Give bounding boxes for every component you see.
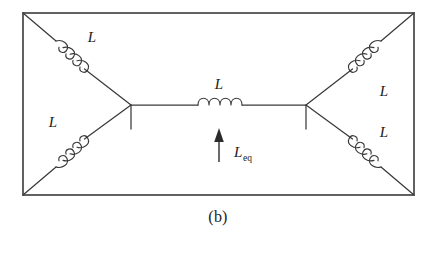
label-equivalent-inductance: L eq xyxy=(233,144,252,163)
branch-top-left xyxy=(23,13,131,105)
label-equivalent-inductance-symbol: L xyxy=(233,144,242,160)
figure-container: L L L L L L eq (b) xyxy=(0,0,436,255)
label-inductor-top-right: L xyxy=(379,83,388,99)
figure-caption: (b) xyxy=(0,208,436,226)
label-equivalent-inductance-subscript: eq xyxy=(243,153,252,163)
branch-center xyxy=(131,98,306,105)
inductor-bottom-left-coil xyxy=(56,136,89,168)
equivalent-inductance-arrow xyxy=(214,128,224,162)
branch-bottom-right xyxy=(306,105,414,195)
label-inductor-top-left: L xyxy=(87,29,96,45)
label-inductor-bottom-left: L xyxy=(48,114,57,130)
outer-frame xyxy=(23,13,414,195)
inductor-top-left-coil xyxy=(56,41,89,73)
label-inductor-center: L xyxy=(214,76,223,92)
branch-top-right xyxy=(306,13,414,105)
label-inductor-bottom-right: L xyxy=(379,124,388,140)
inductor-center-coil xyxy=(198,98,242,105)
inductor-bottom-right-coil xyxy=(348,136,381,168)
branch-bottom-left xyxy=(23,105,131,195)
inductor-top-right-coil xyxy=(348,41,381,73)
